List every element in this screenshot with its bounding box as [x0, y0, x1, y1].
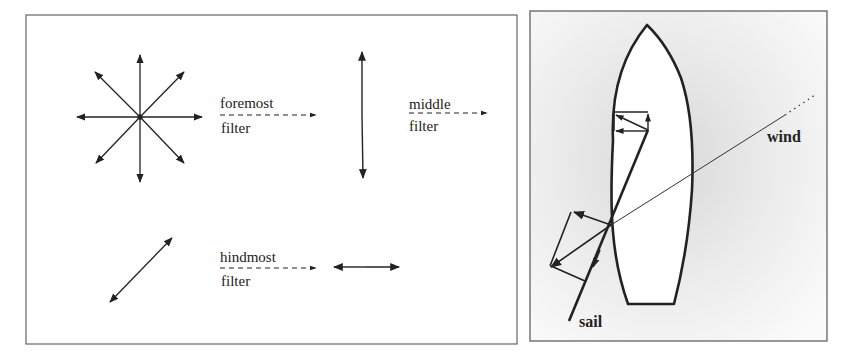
- filter-label: filter: [221, 273, 250, 289]
- sailboat-panel: wind sail: [530, 11, 827, 341]
- sail-label: sail: [579, 313, 603, 330]
- foremost-label: foremost: [220, 95, 274, 111]
- middle-label: middle: [409, 96, 451, 112]
- filter-label: filter: [221, 120, 250, 136]
- panel-border: [26, 15, 517, 344]
- filter-label: filter: [409, 118, 438, 134]
- wind-label: wind: [767, 128, 801, 145]
- polarization-panel: foremost filter middle filter hindmost f…: [26, 15, 517, 344]
- hindmost-label: hindmost: [220, 249, 277, 265]
- figure-canvas: foremost filter middle filter hindmost f…: [0, 0, 846, 359]
- vertical-polarization-arrow-icon: [362, 115, 363, 178]
